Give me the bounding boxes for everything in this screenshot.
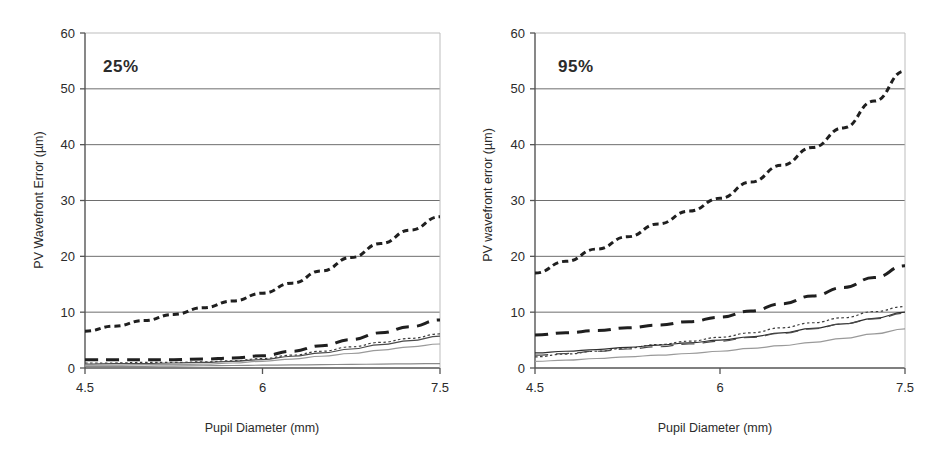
y-tick-label: 30 <box>61 193 75 208</box>
y-tick-label: 60 <box>511 26 525 41</box>
panel-tag-label: 95% <box>558 57 594 76</box>
y-tick-label: 40 <box>511 137 525 152</box>
series-group-25 <box>85 217 440 367</box>
series-line-series-4-solid-mid <box>535 312 905 353</box>
series-line-series-2-long-dash-heavy <box>85 320 440 360</box>
x-tick-label: 7.5 <box>896 380 914 395</box>
tick-labels-x-95: 4.567.5 <box>526 380 914 395</box>
y-tick-label: 10 <box>511 305 525 320</box>
y-tick-label: 0 <box>518 361 525 376</box>
y-axis-title: PV wavefront error (µm) <box>481 128 495 262</box>
chart-svg-25-percent: 0102030405060 4.567.5 25% PV Wavefront E… <box>0 0 470 454</box>
y-tick-label: 20 <box>61 249 75 264</box>
x-tick-label: 6 <box>259 380 266 395</box>
x-tick-label: 4.5 <box>526 380 544 395</box>
x-tick-label: 7.5 <box>431 380 449 395</box>
chart-panel-95-percent: 0102030405060 4.567.5 95% PV wavefront e… <box>470 0 939 454</box>
y-axis-title: PV Wavefront Error (µm) <box>32 131 46 268</box>
x-axis-title: Pupil Diameter (mm) <box>658 421 773 435</box>
chart-svg-95-percent: 0102030405060 4.567.5 95% PV wavefront e… <box>470 0 939 454</box>
x-axis-title: Pupil Diameter (mm) <box>205 421 320 435</box>
figure-two-panel-line-charts: 0102030405060 4.567.5 25% PV Wavefront E… <box>0 0 939 454</box>
y-tick-label: 30 <box>511 193 525 208</box>
x-tick-label: 6 <box>716 380 723 395</box>
y-tick-label: 0 <box>68 361 75 376</box>
series-group-95 <box>535 71 905 361</box>
tick-labels-y-25: 0102030405060 <box>61 26 75 376</box>
y-tick-label: 40 <box>61 137 75 152</box>
axes-95 <box>530 33 905 374</box>
chart-panel-25-percent: 0102030405060 4.567.5 25% PV Wavefront E… <box>0 0 470 454</box>
y-tick-label: 50 <box>511 81 525 96</box>
series-line-series-1-short-dash-heavy <box>535 71 905 273</box>
tick-labels-y-95: 0102030405060 <box>511 26 525 376</box>
panel-tag-label: 25% <box>103 57 139 76</box>
tick-labels-x-25: 4.567.5 <box>76 380 449 395</box>
series-line-series-1-short-dash-heavy <box>85 217 440 331</box>
series-line-series-2-long-dash-heavy <box>535 266 905 335</box>
x-tick-label: 4.5 <box>76 380 94 395</box>
y-tick-label: 50 <box>61 81 75 96</box>
y-tick-label: 60 <box>61 26 75 41</box>
series-line-series-5-dash-mid <box>535 313 905 355</box>
y-tick-label: 20 <box>511 249 525 264</box>
series-line-series-6-solid-light <box>535 329 905 361</box>
y-tick-label: 10 <box>61 305 75 320</box>
